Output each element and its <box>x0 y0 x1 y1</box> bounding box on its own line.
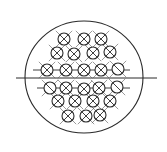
tube <box>87 95 99 107</box>
tube <box>104 95 116 107</box>
tube <box>68 48 80 60</box>
tube <box>93 82 105 94</box>
tube <box>51 47 63 59</box>
tube <box>44 82 56 94</box>
tube <box>112 63 124 75</box>
tube <box>60 64 72 76</box>
tube <box>94 109 106 121</box>
tube <box>78 83 90 95</box>
tube <box>69 95 81 107</box>
tube <box>41 64 53 76</box>
tube <box>87 47 99 59</box>
tube <box>58 33 70 45</box>
tube-sheet-diagram <box>0 0 167 152</box>
tube <box>78 64 90 76</box>
tube <box>52 95 64 107</box>
tube <box>95 33 107 45</box>
tube <box>60 82 72 94</box>
tube <box>78 33 90 45</box>
tube <box>111 81 123 93</box>
tube <box>80 110 92 122</box>
tube <box>95 64 107 76</box>
tube <box>104 46 116 58</box>
tube <box>62 110 74 122</box>
